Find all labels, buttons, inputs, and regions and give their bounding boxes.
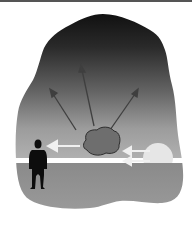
cloud: [84, 127, 120, 155]
ground: [0, 163, 192, 223]
scattering-diagram: [0, 0, 192, 226]
